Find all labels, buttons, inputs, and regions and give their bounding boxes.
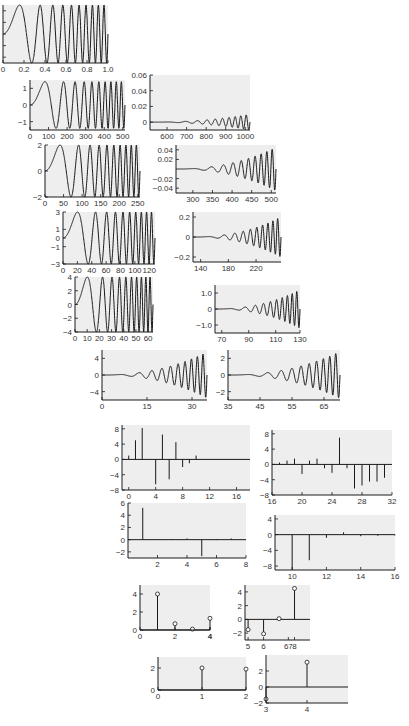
chart-panel-p5: 0.040.02−0.02−0.04300350400450500 — [176, 145, 276, 193]
x-tick-label: 8 — [292, 642, 297, 651]
x-tick-label: 5 — [246, 642, 251, 651]
x-tick-label: 40 — [119, 334, 128, 343]
x-tick-label: 100 — [128, 266, 142, 275]
y-tick-label: 4 — [121, 511, 126, 520]
x-tick-label: 90 — [244, 335, 253, 344]
x-tick-label: 10 — [83, 334, 92, 343]
y-tick-label: 2 — [133, 608, 138, 617]
x-tick-label: 400 — [225, 195, 239, 204]
chart-panel-p6: 310−1−3020406080100120 — [63, 212, 155, 264]
y-tick-label: 0 — [208, 305, 213, 314]
x-tick-label: 600 — [160, 132, 174, 141]
x-tick-label: 65 — [320, 402, 329, 411]
x-tick-label: 0.6 — [60, 65, 72, 74]
y-tick-label: −4 — [63, 328, 73, 337]
x-tick-label: 1000 — [236, 132, 254, 141]
x-tick-label: 0 — [127, 492, 132, 501]
x-tick-label: 0 — [1, 65, 6, 74]
y-tick-label: −3 — [51, 260, 61, 269]
x-tick-label: 130 — [293, 335, 307, 344]
x-tick-label: 50 — [59, 199, 68, 208]
x-tick-label: 30 — [188, 402, 197, 411]
y-tick-label: 2 — [38, 141, 43, 150]
y-tick-label: 0 — [268, 531, 273, 540]
y-tick-label: 4 — [238, 588, 243, 597]
x-tick-label: 0 — [73, 334, 78, 343]
x-tick-label: 6 — [214, 560, 219, 569]
x-tick-label: 30 — [107, 334, 116, 343]
y-tick-label: 0.04 — [157, 146, 173, 155]
y-tick-label: 0 — [221, 371, 226, 380]
x-tick-label: 15 — [143, 402, 152, 411]
x-tick-label: 220 — [249, 264, 263, 273]
y-tick-label: −4 — [263, 546, 273, 555]
y-tick-label: −2 — [233, 629, 243, 638]
y-tick-label: 1 — [23, 84, 28, 93]
x-tick-label: 4 — [153, 492, 158, 501]
y-tick-label: −2 — [33, 193, 43, 202]
x-tick-label: 12 — [205, 492, 214, 501]
x-tick-label: 14 — [356, 572, 365, 581]
x-tick-label: 200 — [113, 199, 127, 208]
y-tick-label: 0 — [56, 234, 61, 243]
y-tick-label: 0 — [95, 371, 100, 380]
y-tick-label: −0.8 — [0, 53, 1, 62]
y-tick-label: −8 — [263, 562, 273, 571]
x-tick-label: 8 — [244, 560, 249, 569]
x-tick-label: 1 — [200, 692, 205, 701]
chart-panel-p9: 1.00−1.07090110130 — [215, 285, 300, 333]
y-tick-label: 4 — [268, 515, 273, 524]
y-tick-label: 0 — [38, 167, 43, 176]
chart-panel-p13: 840−4−81620242832 — [272, 430, 392, 495]
x-tick-label: 0.2 — [18, 65, 30, 74]
y-tick-label: 0.8 — [0, 7, 1, 16]
x-tick-label: 800 — [199, 132, 213, 141]
chart-panel-p4: 20−2050100150200250 — [45, 145, 140, 197]
y-tick-label: −1 — [18, 118, 28, 127]
y-tick-label: 0 — [259, 683, 264, 692]
y-tick-label: 4 — [95, 354, 100, 363]
y-tick-label: 0 — [265, 460, 270, 469]
chart-panel-p3: 0.060.040.0206007008009001000 — [150, 75, 250, 130]
chart-panel-p17: 420−256678 — [245, 585, 310, 640]
y-tick-label: −0.2 — [174, 253, 190, 262]
y-tick-label: −2 — [63, 314, 73, 323]
y-tick-label: 0.2 — [179, 213, 191, 222]
y-tick-label: 1 — [56, 225, 61, 234]
chart-panel-p10: 40−401530 — [102, 350, 207, 400]
y-tick-label: 8 — [115, 425, 120, 434]
x-tick-label: 10 — [288, 572, 297, 581]
y-tick-label: 0.06 — [131, 71, 147, 80]
chart-panel-p11: 20−235455565 — [228, 350, 340, 400]
x-tick-label: 0.8 — [81, 65, 93, 74]
x-tick-label: 16 — [232, 492, 241, 501]
x-tick-label: 0 — [100, 402, 105, 411]
x-tick-label: 8 — [180, 492, 185, 501]
x-tick-label: 500 — [116, 132, 130, 141]
x-tick-label: 2 — [244, 692, 249, 701]
chart-panel-p14: 6420−22468 — [128, 503, 246, 558]
x-tick-label: 12 — [322, 572, 331, 581]
x-tick-label: 35 — [224, 402, 233, 411]
x-tick-label: 6 — [261, 642, 266, 651]
x-tick-label: 4 — [305, 705, 310, 714]
y-tick-label: −0.04 — [153, 184, 174, 193]
x-tick-label: 0 — [156, 692, 161, 701]
x-tick-label: 70 — [217, 335, 226, 344]
y-tick-label: 3 — [56, 208, 61, 217]
y-tick-label: −4 — [260, 476, 270, 485]
y-tick-label: 6 — [121, 499, 126, 508]
y-tick-label: 0.02 — [157, 155, 173, 164]
y-tick-label: 0 — [186, 233, 191, 242]
y-tick-label: 4 — [115, 440, 120, 449]
x-tick-label: 20 — [73, 266, 82, 275]
y-tick-label: −4 — [110, 471, 120, 480]
chart-panel-p12: 840−4−80481216 — [122, 425, 250, 490]
y-tick-label: 0.02 — [131, 102, 147, 111]
x-tick-label: 150 — [94, 199, 108, 208]
x-tick-label: 0 — [138, 632, 143, 641]
x-tick-label: 80 — [116, 266, 125, 275]
x-tick-label: 2 — [155, 560, 160, 569]
x-tick-label: 110 — [269, 335, 282, 344]
x-tick-label: 0 — [28, 132, 33, 141]
